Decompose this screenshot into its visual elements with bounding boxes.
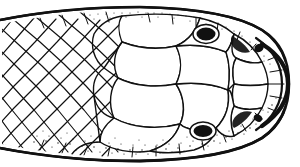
eye-upper [193, 25, 219, 44]
snake-head-dorsal-drawing [0, 0, 300, 167]
illustration-canvas: Snake head, dorsal view [0, 0, 300, 167]
supraocular-shield-upper [176, 45, 229, 90]
eye-lower-pupil [194, 125, 213, 137]
frontal-shield [111, 78, 184, 127]
eye-upper-pupil [197, 28, 216, 41]
internasal-shield-lower [233, 84, 269, 109]
internasal-shield-upper [233, 58, 268, 86]
eye-lower [190, 122, 216, 140]
parietal-shield-lower [115, 42, 181, 86]
